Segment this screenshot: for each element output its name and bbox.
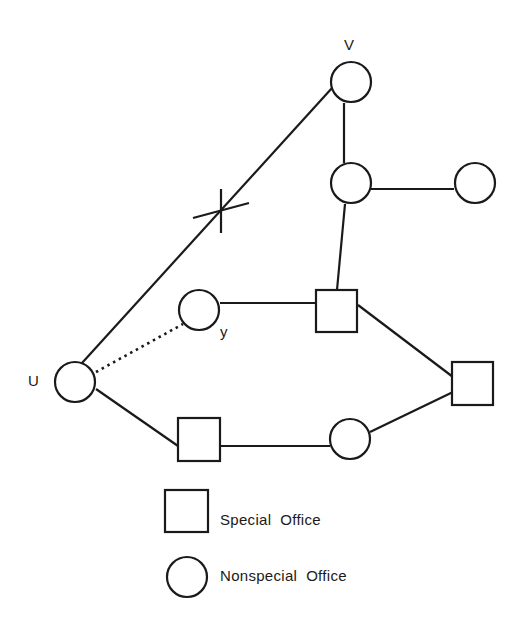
node-y [179,290,219,330]
edge-u-s3 [96,389,178,446]
node-n2 [331,163,371,203]
legend-special-label: Special Office [220,511,321,528]
label-y: y [220,323,228,340]
edge-n4-s2 [370,392,453,432]
node-n4 [330,419,370,459]
legend-square-icon [165,490,208,532]
node-v [331,62,371,102]
edge-u-y [96,324,183,372]
node-s2 [452,362,493,405]
legend-circle-icon [167,557,207,597]
node-s1 [316,290,357,332]
edge-n2-s1 [337,204,345,290]
node-s3 [178,418,220,461]
label-v: V [344,36,354,53]
node-u [55,362,95,402]
label-u: U [28,372,39,389]
legend-nonspecial-label: Nonspecial Office [220,567,347,584]
edge-s1-s2 [358,305,453,377]
node-n3 [455,163,495,203]
